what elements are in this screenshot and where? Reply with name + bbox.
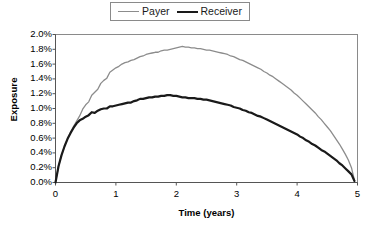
x-tick-label: 2 xyxy=(164,189,188,199)
x-tick-labels: 012345 xyxy=(0,0,367,226)
x-tick-label: 0 xyxy=(44,189,68,199)
x-tick-label: 1 xyxy=(104,189,128,199)
x-tick-label: 5 xyxy=(346,189,367,199)
x-tick-label: 3 xyxy=(225,189,249,199)
x-tick-label: 4 xyxy=(285,189,309,199)
exposure-line-chart: Payer Receiver Exposure Time (years) 0.0… xyxy=(0,0,367,226)
